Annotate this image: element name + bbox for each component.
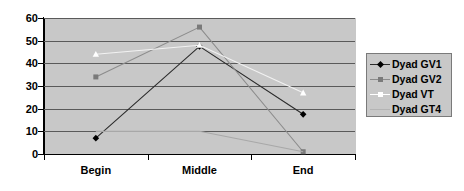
y-axis-tick-label: 0 bbox=[12, 149, 38, 160]
y-axis-tick-mark bbox=[38, 63, 43, 64]
y-axis-tick-mark bbox=[38, 41, 43, 42]
y-axis-tick-label: 50 bbox=[12, 35, 38, 46]
y-axis-tick-mark bbox=[38, 109, 43, 110]
gridline bbox=[44, 41, 355, 42]
legend-marker-diamond-icon bbox=[370, 59, 390, 70]
legend-label: Dyad GV2 bbox=[392, 74, 442, 85]
legend-entry-dyad-gv2[interactable]: Dyad GV2 bbox=[367, 72, 451, 87]
gridline bbox=[44, 109, 355, 110]
y-axis-tick-labels: 0102030405060 bbox=[8, 0, 38, 191]
y-axis-tick-mark bbox=[38, 131, 43, 132]
y-axis-tick-mark bbox=[38, 154, 43, 155]
legend-label: Dyad VT bbox=[392, 89, 434, 100]
legend-entry-dyad-gv1[interactable]: Dyad GV1 bbox=[367, 57, 451, 72]
legend: Dyad GV1 Dyad GV2 Dyad VT Dyad GT4 bbox=[366, 53, 452, 117]
y-axis-tick-label: 30 bbox=[12, 81, 38, 92]
y-axis-tick-mark bbox=[38, 18, 43, 19]
legend-entry-dyad-vt[interactable]: Dyad VT bbox=[367, 87, 451, 102]
y-axis-tick-label: 20 bbox=[12, 103, 38, 114]
y-axis-line bbox=[43, 17, 44, 155]
x-axis-tick-mark bbox=[251, 155, 252, 160]
x-axis-category-label: Begin bbox=[81, 164, 112, 176]
y-axis-tick-label: 40 bbox=[12, 58, 38, 69]
x-axis-category-label: Middle bbox=[182, 164, 217, 176]
legend-label: Dyad GV1 bbox=[392, 59, 442, 70]
gridline bbox=[44, 86, 355, 87]
x-axis-tick-mark bbox=[355, 155, 356, 160]
line-chart: 0102030405060 BeginMiddleEnd Dyad GV1 Dy… bbox=[0, 0, 464, 191]
legend-marker-triangle-icon bbox=[370, 89, 390, 100]
y-axis-tick-label: 10 bbox=[12, 126, 38, 137]
legend-marker-line-icon bbox=[370, 104, 390, 115]
gridline bbox=[44, 18, 355, 19]
x-axis-tick-mark bbox=[44, 155, 45, 160]
gridline bbox=[44, 63, 355, 64]
legend-marker-square-icon bbox=[370, 74, 390, 85]
y-axis-tick-mark bbox=[38, 86, 43, 87]
y-axis-tick-label: 60 bbox=[12, 13, 38, 24]
legend-entry-dyad-gt4[interactable]: Dyad GT4 bbox=[367, 102, 451, 117]
gridline bbox=[44, 131, 355, 132]
legend-label: Dyad GT4 bbox=[392, 104, 441, 115]
x-axis-tick-mark bbox=[148, 155, 149, 160]
x-axis-category-label: End bbox=[293, 164, 314, 176]
x-axis-line bbox=[44, 154, 356, 155]
